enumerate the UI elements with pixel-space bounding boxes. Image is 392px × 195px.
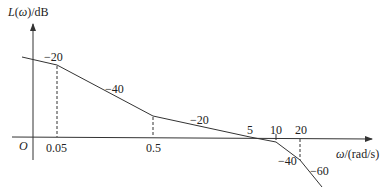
x-axis-label: ω/(rad/s) bbox=[336, 147, 379, 161]
tick-label-10: 10 bbox=[270, 123, 282, 137]
x-axis bbox=[12, 137, 372, 139]
magnitude-curve bbox=[22, 57, 322, 187]
tick-label-20: 20 bbox=[295, 123, 307, 137]
y-axis-label: L(ω)/dB bbox=[7, 5, 49, 19]
tick-label-0.5: 0.5 bbox=[146, 141, 161, 155]
tick-label-5: 5 bbox=[247, 123, 253, 137]
slope-label-seg4: −40 bbox=[278, 154, 297, 168]
slope-label-seg1: −20 bbox=[44, 50, 63, 64]
slope-label-seg2: −40 bbox=[105, 82, 124, 96]
slope-label-seg5: −60 bbox=[310, 164, 329, 178]
origin-label: O bbox=[19, 139, 28, 153]
bode-plot: L(ω)/dB O 0.05 0.5 5 10 20 −20 −40 −20 −… bbox=[0, 0, 392, 195]
tick-label-0.05: 0.05 bbox=[46, 141, 67, 155]
slope-label-seg3: −20 bbox=[190, 113, 209, 127]
